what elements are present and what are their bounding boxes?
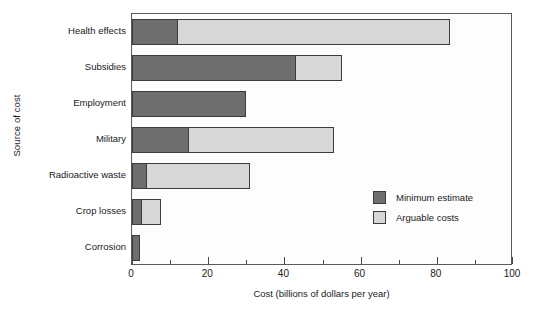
- x-axis-minor-tick: [323, 260, 324, 264]
- y-axis-tick-label: Corrosion: [18, 241, 126, 252]
- y-axis-tick-label: Radioactive waste: [18, 169, 126, 180]
- chart-figure: Source of cost Health effectsSubsidiesEm…: [0, 0, 543, 314]
- bar-segment: [132, 19, 178, 45]
- legend-label: Arguable costs: [396, 212, 459, 223]
- y-axis-tick-label: Employment: [18, 97, 126, 108]
- y-axis-tick-label: Crop losses: [18, 205, 126, 216]
- bar-segment: [177, 19, 450, 45]
- x-axis-title: Cost (billions of dollars per year): [131, 288, 512, 299]
- y-axis-tick-label: Subsidies: [18, 61, 126, 72]
- bar-row: [132, 235, 140, 261]
- x-axis-major-tick: [361, 257, 362, 264]
- bar-segment: [132, 91, 246, 117]
- y-axis-tick-label: Military: [18, 133, 126, 144]
- x-axis-tick-label: 20: [202, 268, 213, 279]
- bar-segment: [295, 55, 342, 81]
- bar-row: [132, 199, 161, 225]
- x-axis-major-tick: [437, 257, 438, 264]
- bar-segment: [132, 127, 189, 153]
- x-axis-major-tick: [512, 257, 513, 264]
- legend-label: Minimum estimate: [396, 192, 473, 203]
- bar-segment: [188, 127, 334, 153]
- bar-row: [132, 163, 250, 189]
- chart-legend: Minimum estimateArguable costs: [373, 189, 473, 229]
- bar-segment: [132, 235, 140, 261]
- x-axis-minor-tick: [170, 260, 171, 264]
- bar-segment: [146, 163, 250, 189]
- bar-row: [132, 91, 246, 117]
- x-axis-major-tick: [284, 257, 285, 264]
- x-axis-tick-label: 0: [128, 268, 134, 279]
- x-axis-minor-tick: [475, 260, 476, 264]
- x-axis-minor-tick: [246, 260, 247, 264]
- legend-item: Minimum estimate: [373, 189, 473, 205]
- legend-swatch: [373, 191, 386, 204]
- bar-segment: [132, 163, 147, 189]
- bar-row: [132, 55, 342, 81]
- bar-row: [132, 19, 450, 45]
- y-axis-tick-label: Health effects: [18, 25, 126, 36]
- x-axis-major-tick: [208, 257, 209, 264]
- x-axis-major-tick: [132, 257, 133, 264]
- legend-swatch: [373, 211, 386, 224]
- legend-item: Arguable costs: [373, 209, 473, 225]
- bar-segment: [141, 199, 161, 225]
- x-axis-tick-label: 80: [430, 268, 441, 279]
- bar-segment: [132, 55, 296, 81]
- bar-row: [132, 127, 334, 153]
- x-axis-tick-label: 100: [504, 268, 521, 279]
- x-axis-tick-label: 40: [278, 268, 289, 279]
- x-axis-minor-tick: [399, 260, 400, 264]
- y-axis-tick-labels: Health effectsSubsidiesEmploymentMilitar…: [18, 13, 126, 265]
- x-axis-tick-label: 60: [354, 268, 365, 279]
